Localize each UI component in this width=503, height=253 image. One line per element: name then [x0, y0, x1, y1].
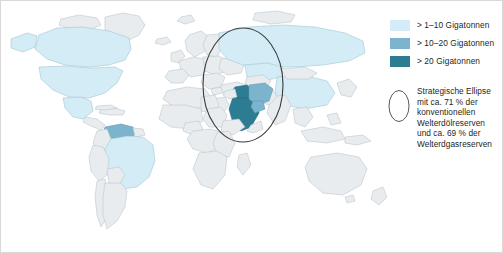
iberia [165, 69, 189, 83]
country-argentina [103, 183, 127, 229]
country-iceland [155, 37, 171, 45]
country-mexico [63, 97, 93, 119]
strategic-ellipse-note: Strategische Ellipse mit ca. 71 % der ko… [387, 86, 503, 150]
ellipse-note-line: konventionellen [417, 107, 492, 118]
legend-label-10-20: > 10–20 Gigatonnen [417, 38, 494, 49]
legend-item[interactable]: > 1–10 Gigatonnen [390, 17, 502, 33]
country-australia [305, 153, 367, 195]
arctic-islands-russia [253, 11, 295, 24]
svalbard [177, 15, 195, 24]
country-tasmania [345, 195, 355, 203]
legend-label-1-10: > 1–10 Gigatonnen [417, 20, 490, 31]
ellipse-note-line: mit ca. 71 % der [417, 97, 492, 108]
southern-africa [193, 151, 227, 189]
ellipse-note-line: Welterdölreserven [417, 118, 492, 129]
legend-swatch-1-10 [390, 20, 410, 31]
korea-japan [337, 79, 357, 97]
indonesia-philippines [301, 127, 345, 143]
country-mongolia [281, 67, 317, 79]
ellipse-note-line: Welterdgasreserven [417, 139, 492, 150]
legend-label-over-20: > 20 Gigatonnen [417, 56, 480, 67]
legend-item[interactable]: > 20 Gigatonnen [390, 53, 502, 69]
country-new-guinea [345, 135, 371, 145]
country-alaska [11, 33, 37, 52]
ellipse-note-text: Strategische Ellipse mit ca. 71 % der ko… [417, 86, 492, 150]
country-russia [219, 25, 365, 67]
country-usa [39, 66, 123, 98]
country-new-zealand [371, 187, 387, 205]
ellipse-note-line: und ca. 69 % der [417, 128, 492, 139]
legend-item[interactable]: > 10–20 Gigatonnen [390, 35, 502, 51]
central-america [83, 117, 105, 130]
map-figure: .c { fill:#e8ecef; stroke:#b9c2c8; strok… [0, 0, 503, 253]
southeast-asia-mainland [293, 107, 313, 127]
world-map[interactable]: .c { fill:#e8ecef; stroke:#b9c2c8; strok… [5, 5, 395, 250]
reserves-legend: > 1–10 Gigatonnen > 10–20 Gigatonnen > 2… [390, 17, 502, 71]
legend-swatch-over-20 [390, 56, 410, 67]
country-madagascar [237, 153, 251, 175]
guyanas [133, 128, 145, 137]
country-philippines [327, 113, 341, 125]
ellipse-outline-icon [387, 89, 411, 123]
ellipse-note-line: Strategische Ellipse [417, 86, 492, 97]
legend-swatch-10-20 [390, 38, 410, 49]
